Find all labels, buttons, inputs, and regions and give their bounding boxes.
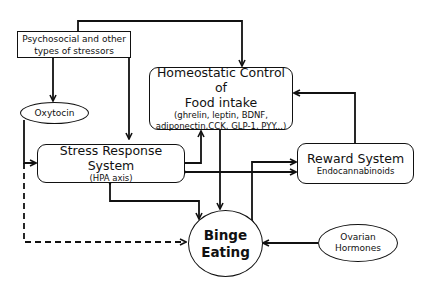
edge-stress-homeostatic: [185, 131, 201, 163]
oxytocin-label: Oxytocin: [35, 108, 75, 119]
stress-response-box: Stress Response System (HPA axis): [37, 144, 185, 183]
ovarian-hormones-ellipse: Ovarian Hormones: [318, 224, 398, 262]
edge-oxytocin-stress: [24, 120, 36, 163]
binge-line2: Eating: [201, 244, 250, 261]
stressors-line1: Psychosocial and other: [22, 33, 126, 45]
stress-response-subtitle: (HPA axis): [89, 173, 132, 184]
stressors-box: Psychosocial and other types of stressor…: [17, 31, 131, 58]
oxytocin-ellipse: Oxytocin: [20, 102, 89, 124]
homeostatic-title-line2: Food intake: [185, 95, 257, 110]
stress-response-title: Stress Response System: [38, 143, 184, 173]
ovarian-line2: Hormones: [335, 243, 381, 254]
edge-stress-binge: [110, 184, 199, 219]
ovarian-line1: Ovarian: [340, 232, 375, 243]
edge-binge-reward: [252, 162, 296, 220]
reward-box: Reward System Endocannabinoids: [297, 143, 414, 184]
reward-title: Reward System: [307, 151, 404, 166]
homeostatic-detail-line2: adiponectin,CCK, GLP-1, PYY...): [156, 121, 287, 132]
stressors-line2: types of stressors: [34, 45, 114, 57]
homeostatic-detail-line1: (ghrelin, leptin, BDNF,: [174, 110, 268, 121]
binge-eating-ellipse: Binge Eating: [188, 210, 263, 277]
reward-subtitle: Endocannabinoids: [317, 166, 395, 177]
edge-reward-homeostatic: [294, 93, 355, 143]
binge-line1: Binge: [204, 227, 247, 244]
homeostatic-box: Homeostatic Control of Food intake (ghre…: [149, 67, 293, 130]
homeostatic-title-line1: Homeostatic Control of: [150, 65, 292, 95]
